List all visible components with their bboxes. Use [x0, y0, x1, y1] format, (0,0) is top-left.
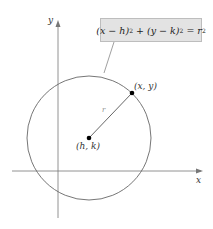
y-axis-label: y — [48, 15, 53, 25]
y-axis-arrow-icon — [56, 20, 61, 27]
radius-label: r — [102, 106, 105, 114]
center-label: (h, k) — [76, 141, 100, 151]
x-axis-label: x — [196, 175, 201, 185]
point-label: (x, y) — [134, 81, 157, 91]
eq-term-y: (y − k) — [147, 25, 180, 36]
eq-exp-r: 2 — [202, 27, 206, 34]
eq-equals: = — [183, 25, 197, 36]
radius-line — [89, 93, 132, 138]
center-point — [87, 136, 92, 141]
leader-line — [104, 42, 114, 73]
eq-plus: + — [133, 25, 147, 36]
x-axis-arrow-icon — [196, 169, 203, 174]
eq-term-x: (x − h) — [96, 25, 129, 36]
circle-point — [130, 91, 135, 96]
equation-box: (x − h)2 + (y − k)2 = r2 — [100, 18, 202, 42]
